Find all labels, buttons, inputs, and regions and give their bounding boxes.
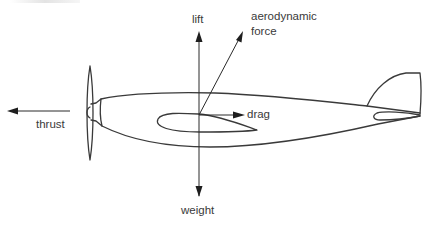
drag-label: drag	[247, 108, 270, 121]
drag-arrow	[199, 112, 245, 119]
spinner	[87, 99, 102, 126]
propeller	[87, 66, 93, 160]
tail-fin	[367, 73, 421, 114]
lift-label: lift	[192, 13, 204, 26]
aircraft-forces-diagram	[0, 0, 433, 231]
weight-arrow	[196, 186, 203, 197]
thrust-arrow	[7, 108, 70, 115]
aerodynamic-force-arrow	[199, 31, 243, 115]
aerodynamic-force-label-line1: aerodynamic	[251, 10, 317, 23]
thrust-label: thrust	[36, 118, 65, 131]
tailplane	[374, 112, 420, 120]
weight-label: weight	[181, 204, 214, 217]
aerodynamic-force-label-line2: force	[251, 25, 277, 38]
wing	[157, 113, 257, 132]
